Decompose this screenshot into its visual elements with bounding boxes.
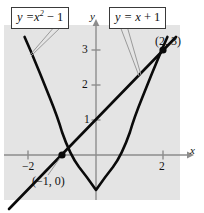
equation-callout-parabola: y =x2 − 1 [11,7,69,29]
dot-intersection-minus1-0 [58,151,65,158]
y-tick-label-3: 3 [82,44,88,56]
point-label-minus1-0: (−1, 0) [32,175,65,187]
point-label-2-3: (2, 3) [155,35,181,47]
equation-callout-line: y = x + 1 [109,7,166,29]
x-axis-label: x [190,145,195,156]
y-tick-label-1: 1 [84,114,90,126]
math-graph-figure: y =x2 − 1 y = x + 1 3 2 1 −2 2 y x (2, 3… [0,0,204,213]
y-tick-label-2: 2 [82,79,88,91]
callout-line-lhs: y = [115,10,132,24]
callout-line-base: x [135,10,141,24]
y-axis-label: y [90,11,95,22]
callout-parabola-exponent: 2 [40,9,44,18]
callout-line-tail: + 1 [144,10,160,24]
graph-drawing-layer [0,0,204,213]
x-tick-label-2: 2 [159,161,165,173]
leader-parabola-a [30,26,55,55]
callout-parabola-tail: − 1 [47,10,63,24]
callout-parabola-lhs: y = [17,10,34,24]
x-tick-label-minus-2: −2 [22,161,34,173]
leader-parabola-b [31,26,62,56]
